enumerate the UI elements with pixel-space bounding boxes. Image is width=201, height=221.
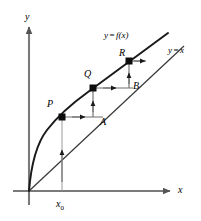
point-marker-R [126,58,133,65]
point-marker-P [59,114,66,121]
point-marker-Q [90,85,97,92]
point-label-P: P [47,99,53,109]
identity-line-label-eq: = [174,45,179,55]
function-curve-label-lhs: y [104,30,108,40]
function-curve-label: y=f(x) [104,31,129,40]
tick-label-x0-subscript: 0 [60,204,64,212]
x-axis-label: x [178,185,182,195]
cobweb-diagram: y x y=f(x) y=x P Q R A B x0 [0,0,201,221]
tick-label-x0: x0 [56,199,64,212]
point-label-A: A [100,117,106,127]
y-axis-label: y [25,12,29,22]
point-label-Q: Q [84,69,91,79]
identity-line [29,46,184,191]
function-curve [29,33,168,191]
point-label-B: B [133,81,139,91]
diagram-canvas [0,0,201,221]
identity-line-label: y=x [168,46,184,55]
identity-line-label-lhs: y [168,45,172,55]
identity-line-label-rhs: x [180,45,184,55]
axes-group [13,27,170,205]
point-label-R: R [119,48,125,58]
function-curve-label-eq: = [110,30,115,40]
function-curve-label-rhs: f(x) [116,30,129,40]
